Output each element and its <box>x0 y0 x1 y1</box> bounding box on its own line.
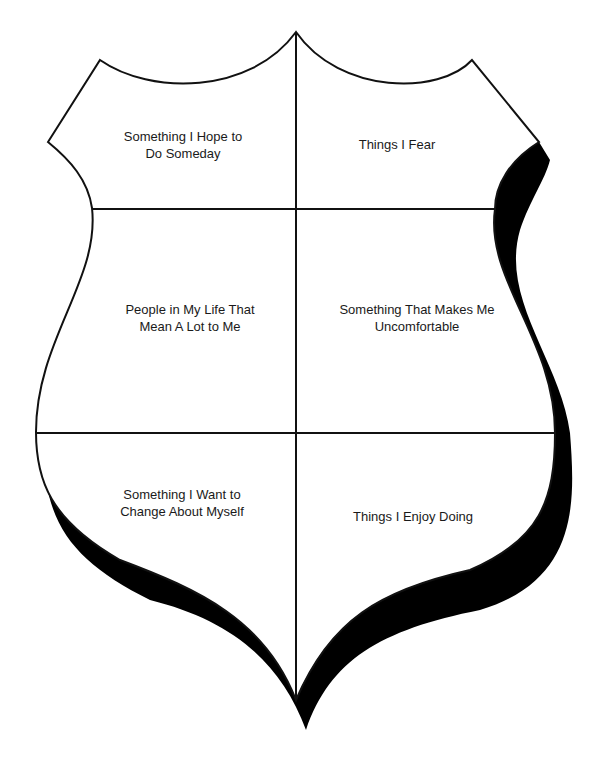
section-top-left-label: Something I Hope to Do Someday <box>124 128 243 162</box>
section-top-right-label: Things I Fear <box>359 136 436 153</box>
shield-diagram <box>0 0 593 764</box>
section-middle-left-label: People in My Life That Mean A Lot to Me <box>125 301 254 335</box>
section-middle-right-label: Something That Makes Me Uncomfortable <box>339 301 494 335</box>
section-bottom-left-label: Something I Want to Change About Myself <box>120 486 244 520</box>
section-bottom-right-label: Things I Enjoy Doing <box>353 508 473 525</box>
